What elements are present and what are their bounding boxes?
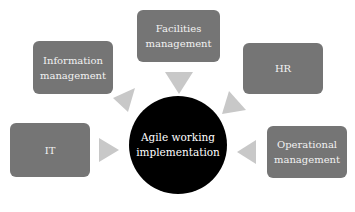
arrow-it (99, 138, 119, 162)
node-hr: HR (243, 43, 323, 94)
arrow-facilities (165, 72, 193, 94)
node-facilities-management: Facilitiesmanagement (137, 10, 220, 62)
node-information-management: Informationmanagement (33, 41, 113, 94)
node-operational-management: Operationalmanagement (267, 126, 347, 178)
arrow-hr (222, 91, 246, 114)
node-it: IT (10, 123, 90, 177)
arrow-information (113, 88, 135, 112)
center-agile-working-implementation: Agile workingimplementation (129, 96, 227, 194)
arrow-operational (237, 140, 256, 164)
